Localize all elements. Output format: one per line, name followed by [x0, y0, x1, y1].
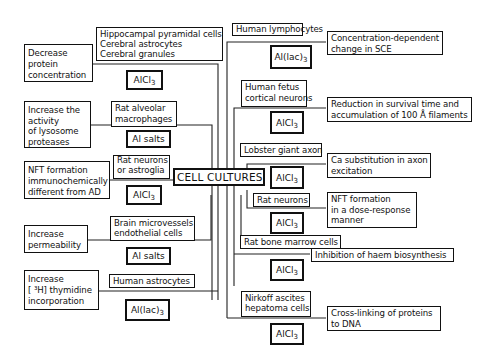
effect-line: manner: [331, 215, 413, 226]
center-node: CELL CULTURES: [173, 168, 265, 186]
agent-label: Al salts: [132, 251, 164, 261]
culture-box: Human fetus cortical neurons: [241, 80, 307, 107]
effect-line: Inhibition of haem biosynthesis: [315, 250, 450, 261]
culture-line: cortical neurons: [245, 93, 303, 104]
effect-line: Increase the: [28, 105, 87, 116]
agent-box: AlCl3: [270, 166, 304, 189]
culture-line: Nirkoff ascites: [245, 293, 307, 303]
culture-box: Rat neurons: [253, 193, 310, 207]
effect-line: change in SCE: [331, 44, 439, 55]
agent-box: Al salts: [126, 130, 171, 148]
culture-box: Human astrocytes: [109, 274, 195, 288]
effect-box: Increase [ ³H] thymidine incorporation: [24, 270, 99, 310]
agent-box: Al salts: [126, 247, 171, 265]
agent-label: Al(lac): [274, 52, 303, 62]
effect-box: Ca substitution in axon excitation: [327, 153, 431, 178]
effect-line: protein: [28, 59, 89, 70]
culture-line: Cerebral granules: [100, 49, 219, 59]
effect-box: Inhibition of haem biosynthesis: [311, 248, 454, 262]
agent-label: AlCl: [276, 265, 293, 275]
culture-line: Hippocampal pyramidal cells: [100, 29, 219, 39]
culture-line: Rat neurons: [257, 195, 306, 206]
agent-label: Al salts: [132, 134, 164, 144]
effect-line: Cross-linking of proteins: [331, 308, 437, 319]
effect-line: Increase: [28, 229, 84, 240]
effect-line: different from AD: [28, 187, 106, 198]
effect-line: permeability: [28, 240, 84, 251]
agent-subscript: 3: [293, 268, 297, 278]
agent-label: Al(lac): [131, 305, 160, 315]
effect-line: [ ³H] thymidine: [28, 285, 95, 296]
culture-box: Brain microvessels endothelial cells: [110, 216, 195, 241]
agent-label: AlCl: [133, 190, 150, 200]
culture-line: macrophages: [115, 114, 173, 125]
effect-line: Decrease: [28, 48, 89, 59]
culture-line: endothelial cells: [114, 228, 191, 238]
culture-line: Human lymphocytes: [236, 24, 299, 34]
culture-line: Rat alveolar: [115, 103, 173, 114]
effect-line: NFT formation: [28, 165, 106, 176]
culture-line: Cerebral astrocytes: [100, 39, 219, 49]
agent-label: AlCl: [276, 118, 293, 128]
agent-subscript: 3: [293, 332, 297, 342]
agent-box: AlCl3: [270, 111, 304, 134]
agent-box: AlCl3: [270, 323, 304, 345]
agent-subscript: 3: [293, 121, 297, 131]
effect-line: Reduction in survival time and: [331, 99, 468, 110]
agent-subscript: 3: [303, 55, 307, 65]
effect-box: NFT formation immunochemically different…: [24, 161, 110, 199]
culture-line: Lobster giant axon: [244, 145, 318, 156]
effect-box: Increase permeability: [24, 225, 88, 253]
culture-box: Rat alveolar macrophages: [111, 101, 177, 127]
effect-box: Reduction in survival time and accumulat…: [327, 97, 472, 122]
effect-line: NFT formation: [331, 194, 413, 205]
agent-box: AlCl3: [126, 70, 163, 90]
agent-label: AlCl: [134, 75, 151, 85]
agent-box: AlCl3: [126, 185, 162, 205]
effect-line: to DNA: [331, 319, 437, 330]
effect-box: Cross-linking of proteins to DNA: [327, 306, 441, 331]
culture-box: Lobster giant axon: [240, 143, 322, 157]
culture-box: Nirkoff ascites hepatoma cells: [241, 291, 311, 317]
effect-line: concentration: [28, 70, 89, 81]
culture-box: Rat neurons or astroglia: [113, 155, 170, 179]
agent-box: AlCl3: [270, 259, 304, 281]
effect-line: in a dose-response: [331, 205, 413, 216]
effect-line: incorporation: [28, 296, 95, 307]
agent-box: Al(lac)3: [270, 45, 312, 69]
culture-box: Rat bone marrow cells: [240, 235, 341, 249]
effect-line: Increase: [28, 274, 95, 285]
culture-line: hepatoma cells: [245, 303, 307, 313]
agent-label: AlCl: [276, 173, 293, 183]
agent-label: AlCl: [276, 218, 293, 228]
effect-box: NFT formation in a dose-response manner: [327, 192, 417, 228]
effect-box: Concentration-dependent change in SCE: [327, 31, 443, 55]
effect-line: excitation: [331, 166, 427, 177]
agent-subscript: 3: [150, 193, 154, 203]
agent-subscript: 3: [293, 221, 297, 231]
culture-line: Human astrocytes: [113, 276, 191, 287]
agent-box: AlCl3: [270, 212, 304, 234]
effect-line: Concentration-dependent: [331, 33, 439, 44]
effect-box: Increase the activity of lysosome protea…: [24, 101, 91, 148]
cell-cultures-diagram: Hippocampal pyramidal cells Cerebral ast…: [0, 0, 486, 360]
culture-line: Human fetus: [245, 82, 303, 93]
agent-box: Al(lac)3: [125, 299, 170, 321]
agent-label: AlCl: [276, 329, 293, 339]
culture-box: Human lymphocytes: [232, 23, 303, 36]
effect-line: proteases: [28, 137, 87, 148]
effect-line: accumulation of 100 Å filaments: [331, 110, 468, 121]
effect-line: of lysosome: [28, 126, 87, 137]
effect-line: immunochemically: [28, 176, 106, 187]
culture-line: or astroglia: [117, 166, 166, 176]
effect-line: Ca substitution in axon: [331, 155, 427, 166]
agent-subscript: 3: [293, 176, 297, 186]
effect-line: activity: [28, 116, 87, 127]
center-label: CELL CULTURES: [177, 171, 263, 183]
culture-line: Rat bone marrow cells: [244, 237, 337, 248]
culture-line: Brain microvessels: [114, 218, 191, 228]
agent-subscript: 3: [160, 308, 164, 318]
culture-box: Hippocampal pyramidal cells Cerebral ast…: [96, 27, 223, 61]
agent-subscript: 3: [151, 78, 155, 88]
effect-box: Decrease protein concentration: [24, 44, 93, 82]
